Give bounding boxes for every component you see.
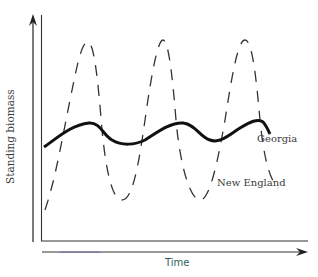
series-label-new-england: New England xyxy=(217,177,286,188)
x-axis-arrow xyxy=(42,248,308,256)
y-axis-arrow xyxy=(29,14,37,242)
y-axis-label: Standing biomass xyxy=(4,104,16,184)
series-georgia xyxy=(44,120,270,147)
x-axis-label: Time xyxy=(165,257,189,268)
series-label-georgia: Georgia xyxy=(257,133,297,144)
